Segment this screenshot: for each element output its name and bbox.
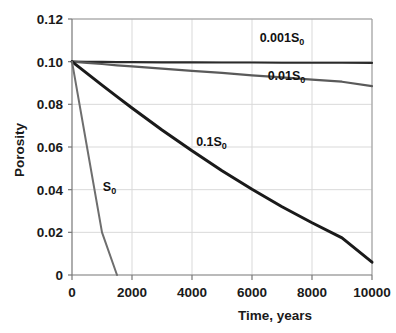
series-line-0.001S0 <box>72 62 372 63</box>
y-tick-label: 0.12 <box>37 12 63 27</box>
x-axis-title: Time, years <box>238 308 312 323</box>
chart-figure: 00.020.040.060.080.100.12 02000400060008… <box>0 0 396 333</box>
x-tick-label: 8000 <box>297 285 327 300</box>
x-tick-label: 0 <box>68 285 76 300</box>
y-tick-label: 0 <box>55 268 63 283</box>
series-annotation: 0.01S0 <box>268 69 306 85</box>
chart-background <box>0 0 396 333</box>
y-tick-label: 0.06 <box>37 140 64 155</box>
porosity-vs-time-line-chart: 00.020.040.060.080.100.12 02000400060008… <box>0 0 396 333</box>
y-axis-title: Porosity <box>12 123 27 178</box>
x-tick-label: 6000 <box>237 285 267 300</box>
x-tick-label: 2000 <box>117 285 147 300</box>
x-tick-label: 10000 <box>353 285 391 300</box>
y-tick-label: 0.08 <box>37 97 64 112</box>
series-annotation: 0.001S0 <box>260 31 305 47</box>
y-tick-label: 0.02 <box>37 225 63 240</box>
y-tick-label: 0.04 <box>37 183 64 198</box>
y-tick-label: 0.10 <box>37 55 63 70</box>
x-tick-label: 4000 <box>177 285 207 300</box>
